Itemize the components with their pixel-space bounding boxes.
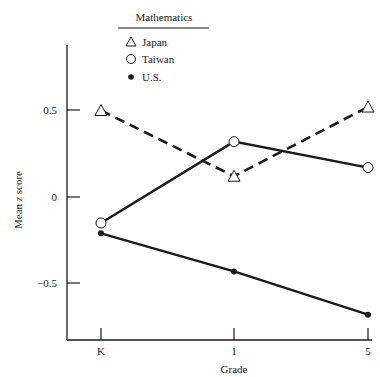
legend-label-taiwan: Taiwan <box>142 53 175 65</box>
legend: Mathematics Japan Taiwan U.S. <box>118 11 209 83</box>
filled-circle-icon <box>98 230 104 236</box>
y-axis-label: Mean z score <box>12 171 24 229</box>
filled-circle-icon <box>231 268 237 274</box>
y-tick-label-0: 0 <box>52 191 58 203</box>
open-circle-icon <box>127 55 136 64</box>
series-line-taiwan <box>101 142 368 223</box>
y-tick-label-neg-0.5: −0.5 <box>37 277 57 289</box>
line-chart: 0.5 0 −0.5 K 1 5 Grade Mean z score Math… <box>0 0 380 377</box>
data-markers <box>95 101 374 318</box>
filled-circle-icon <box>365 312 371 318</box>
legend-label-japan: Japan <box>142 36 168 48</box>
legend-label-us: U.S. <box>142 71 162 83</box>
filled-circle-icon <box>128 74 134 80</box>
legend-title: Mathematics <box>136 11 193 23</box>
open-circle-icon <box>229 137 239 147</box>
x-tick-label-k: K <box>97 345 105 357</box>
open-circle-icon <box>363 163 373 173</box>
open-triangle-icon <box>126 37 136 46</box>
y-tick-label-0.5: 0.5 <box>43 104 57 116</box>
x-tick-label-1: 1 <box>231 345 237 357</box>
x-ticks: K 1 5 <box>97 328 371 357</box>
x-tick-label-5: 5 <box>365 345 371 357</box>
open-triangle-icon <box>362 101 374 112</box>
y-ticks: 0.5 0 −0.5 <box>37 104 80 289</box>
x-axis-label: Grade <box>221 363 248 375</box>
open-triangle-icon <box>95 105 107 116</box>
open-triangle-icon <box>228 170 240 181</box>
open-circle-icon <box>96 218 106 228</box>
